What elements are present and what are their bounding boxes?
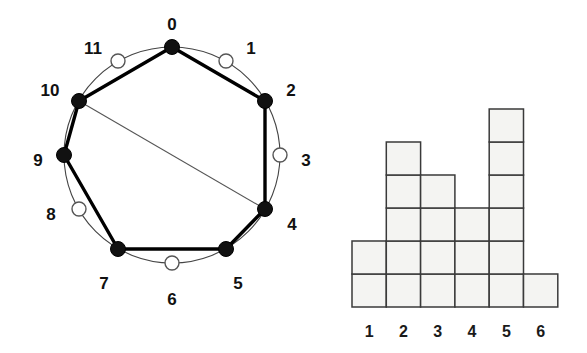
histogram-cell xyxy=(386,175,420,208)
histogram-cell xyxy=(489,241,523,274)
node-6-open[interactable] xyxy=(165,256,179,270)
histogram-cell xyxy=(455,208,489,241)
node-2-filled[interactable] xyxy=(258,94,273,109)
node-label-11: 11 xyxy=(84,39,102,58)
histogram-cell xyxy=(421,208,455,241)
node-5-filled[interactable] xyxy=(219,242,234,257)
node-4-filled[interactable] xyxy=(258,202,273,217)
histogram-cell xyxy=(352,274,386,307)
node-0-filled[interactable] xyxy=(165,40,180,55)
histogram-cell xyxy=(386,241,420,274)
node-11-open[interactable] xyxy=(111,54,125,68)
circle-diagram-panel: 01234567891011 xyxy=(0,0,330,353)
x-axis-tick-label-3: 3 xyxy=(433,323,442,340)
histogram-cell xyxy=(489,274,523,307)
x-axis-tick-label-2: 2 xyxy=(399,323,408,340)
histogram-cell xyxy=(489,142,523,175)
node-label-5: 5 xyxy=(233,274,242,293)
chord-edge-9-10 xyxy=(64,101,79,155)
node-9-filled[interactable] xyxy=(57,148,72,163)
x-axis-tick-label-5: 5 xyxy=(502,323,511,340)
node-label-6: 6 xyxy=(167,290,176,309)
histogram-cell xyxy=(421,241,455,274)
histogram-cell xyxy=(386,142,420,175)
node-3-open[interactable] xyxy=(273,148,287,162)
node-label-0: 0 xyxy=(167,15,176,34)
histogram-cell xyxy=(489,175,523,208)
node-8-open[interactable] xyxy=(72,202,86,216)
chord-edges-group xyxy=(64,47,265,249)
node-10-filled[interactable] xyxy=(72,94,87,109)
figure-container: 01234567891011 123456 xyxy=(0,0,587,353)
histogram-cell xyxy=(386,274,420,307)
x-axis-tick-label-6: 6 xyxy=(536,323,545,340)
node-1-open[interactable] xyxy=(219,54,233,68)
node-label-4: 4 xyxy=(287,215,297,234)
histogram-cell xyxy=(386,208,420,241)
histogram-panel: 123456 xyxy=(330,0,587,353)
histogram-svg: 123456 xyxy=(330,0,587,353)
histogram-cell xyxy=(421,274,455,307)
node-7-filled[interactable] xyxy=(111,242,126,257)
node-label-7: 7 xyxy=(99,274,108,293)
node-label-9: 9 xyxy=(33,151,42,170)
circle-diagram-svg: 01234567891011 xyxy=(0,0,330,353)
chord-edge-4-5 xyxy=(226,209,265,249)
histogram-cell xyxy=(455,274,489,307)
histogram-x-axis-labels: 123456 xyxy=(365,323,546,340)
node-label-10: 10 xyxy=(41,81,60,100)
chord-edge-7-9 xyxy=(64,155,118,249)
histogram-cell xyxy=(455,241,489,274)
histogram-cells-group xyxy=(352,109,558,307)
histogram-cell xyxy=(489,109,523,142)
node-label-2: 2 xyxy=(286,81,295,100)
x-axis-tick-label-4: 4 xyxy=(468,323,477,340)
node-label-8: 8 xyxy=(46,205,55,224)
histogram-cell xyxy=(421,175,455,208)
node-label-3: 3 xyxy=(301,151,310,170)
x-axis-tick-label-1: 1 xyxy=(365,323,374,340)
node-label-1: 1 xyxy=(246,39,255,58)
histogram-cell xyxy=(524,274,558,307)
histogram-cell xyxy=(352,241,386,274)
chord-edge-10-4 xyxy=(79,101,265,209)
histogram-cell xyxy=(489,208,523,241)
